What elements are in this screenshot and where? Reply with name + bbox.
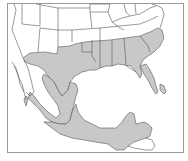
map-svg	[0, 0, 188, 161]
range-map	[0, 0, 188, 161]
